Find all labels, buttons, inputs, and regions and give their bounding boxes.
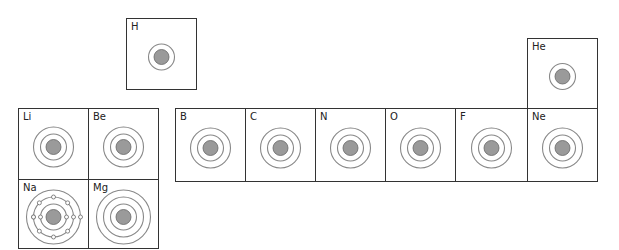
- element-cell-be: Be: [88, 108, 159, 180]
- bohr-model-icon: [19, 109, 90, 181]
- bohr-model-icon: [89, 109, 160, 181]
- bohr-model-icon: [316, 109, 387, 183]
- element-cell-n: N: [315, 108, 386, 182]
- element-cell-na: Na: [18, 179, 89, 249]
- bohr-model-icon: [89, 180, 160, 250]
- element-cell-li: Li: [18, 108, 89, 180]
- element-cell-b: B: [175, 108, 246, 182]
- element-cell-c: C: [245, 108, 316, 182]
- bohr-model-icon: [528, 39, 599, 110]
- bohr-model-icon: [528, 109, 599, 183]
- bohr-model-icon: [386, 109, 457, 183]
- element-cell-o: O: [385, 108, 456, 182]
- element-cell-f: F: [455, 108, 528, 182]
- element-cell-he: He: [527, 38, 598, 109]
- bohr-model-icon: [456, 109, 529, 183]
- bohr-model-icon: [246, 109, 317, 183]
- bohr-model-icon: [19, 180, 90, 250]
- element-cell-h: H: [126, 18, 197, 90]
- bohr-model-icon: [176, 109, 247, 183]
- element-cell-mg: Mg: [88, 179, 159, 249]
- bohr-model-icon: [127, 19, 198, 91]
- element-cell-ne: Ne: [527, 108, 598, 182]
